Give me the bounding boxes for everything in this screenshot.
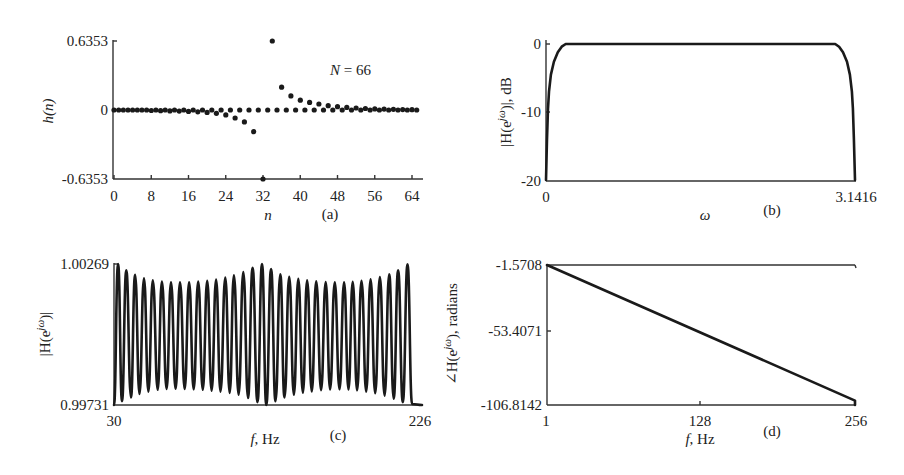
- panel-a-xtick-label: 16: [181, 188, 197, 204]
- panel-b-magnitude-db: 0 -10 -20 0 3.1416 |H(ejω)|, dB ω (b): [495, 36, 877, 223]
- panel-d-xtick-right: 256: [845, 413, 868, 429]
- data-point: [307, 100, 312, 105]
- panel-d-y-label: ∠H(ejω), radians: [441, 283, 461, 385]
- data-point: [219, 107, 224, 112]
- panel-a-xtick-label: 48: [330, 188, 345, 204]
- data-point: [298, 98, 303, 103]
- data-point: [116, 107, 121, 112]
- ylabel-part: |H(e: [37, 330, 54, 356]
- data-point: [349, 107, 354, 112]
- data-point: [279, 85, 284, 90]
- panel-a-xtick-label: 24: [218, 188, 234, 204]
- panel-b-magnitude-curve: [546, 44, 855, 180]
- data-point: [368, 107, 373, 112]
- panel-a-ytick-bottom: -0.6353: [62, 171, 108, 187]
- panel-c-x-label: f, Hz: [250, 431, 280, 447]
- panel-a-data-points: [111, 38, 419, 181]
- data-point: [302, 107, 307, 112]
- panel-c-magnitude-ripple: 1.00269 0.99731 30 226 |H(ejω)| f, Hz (c…: [34, 256, 432, 447]
- data-point: [251, 129, 256, 134]
- data-point: [312, 107, 317, 112]
- data-point: [260, 176, 265, 181]
- data-point: [284, 107, 289, 112]
- panel-d-xtick-left: 1: [542, 413, 550, 429]
- data-point: [340, 107, 345, 112]
- panel-d-phase: -1.5708 -53.4071 -106.8142 1 128 256 ∠H(…: [441, 257, 868, 447]
- data-point: [130, 107, 135, 112]
- data-point: [172, 107, 177, 112]
- panel-d-ytick-mid: -53.4071: [488, 323, 542, 339]
- panel-c-label: (c): [330, 427, 347, 444]
- data-point: [186, 109, 191, 114]
- data-point: [209, 107, 214, 112]
- data-point: [400, 107, 405, 112]
- data-point: [200, 107, 205, 112]
- data-point: [149, 108, 154, 113]
- data-point: [414, 107, 419, 112]
- tick: [855, 265, 856, 268]
- data-point: [288, 93, 293, 98]
- data-point: [409, 107, 414, 112]
- data-point: [386, 107, 391, 112]
- ylabel-part: ∠H(e: [444, 349, 461, 384]
- panel-a-xtick-label: 40: [293, 188, 308, 204]
- panel-d-x-label: f, Hz: [685, 431, 715, 447]
- data-point: [395, 107, 400, 112]
- data-point: [191, 107, 196, 112]
- data-point: [354, 105, 359, 110]
- data-point: [139, 107, 144, 112]
- data-point: [246, 107, 251, 112]
- data-point: [330, 107, 335, 112]
- data-point: [358, 107, 363, 112]
- panel-b-ytick-bottom: -20: [521, 173, 541, 189]
- panel-a-label: (a): [322, 206, 339, 223]
- data-point: [237, 107, 242, 112]
- figure: 0.6353 0 -0.6353 0816243240485664 h(n) n…: [0, 0, 904, 475]
- data-point: [335, 104, 340, 109]
- panel-a-impulse-response: 0.6353 0 -0.6353 0816243240485664 h(n) n…: [40, 33, 423, 223]
- panel-c-ytick-top: 1.00269: [60, 256, 109, 272]
- ylabel-part: ), radians: [444, 283, 461, 339]
- panel-d-ytick-bottom: -106.8142: [481, 397, 542, 413]
- panel-c-ripple-curve: [114, 264, 422, 405]
- data-point: [372, 106, 377, 111]
- panel-d-xtick-mid: 128: [689, 413, 712, 429]
- panel-b-x-label: ω: [700, 207, 711, 223]
- panel-c-xtick-left: 30: [107, 413, 122, 429]
- data-point: [391, 107, 396, 112]
- data-point: [382, 107, 387, 112]
- data-point: [363, 106, 368, 111]
- panel-b-ytick-top: 0: [534, 36, 542, 52]
- panel-d-phase-curve: [547, 265, 855, 405]
- data-point: [233, 115, 238, 120]
- panel-b-xtick-left: 0: [542, 189, 550, 205]
- data-point: [344, 105, 349, 110]
- data-point: [111, 107, 116, 112]
- data-point: [321, 107, 326, 112]
- panel-c-ytick-bottom: 0.99731: [60, 397, 109, 413]
- data-point: [405, 107, 410, 112]
- data-point: [377, 107, 382, 112]
- panel-d-label: (d): [763, 423, 781, 440]
- data-point: [144, 107, 149, 112]
- ylabel-superscript: jω: [441, 339, 453, 352]
- panel-b-xtick-right: 3.1416: [835, 189, 877, 205]
- panel-c-y-label: |H(ejω)|: [34, 312, 54, 356]
- data-point: [293, 107, 298, 112]
- data-point: [242, 119, 247, 124]
- panel-a-xtick-label: 64: [405, 188, 421, 204]
- panel-a-x-tick-labels: 0816243240485664: [110, 188, 420, 204]
- data-point: [265, 107, 270, 112]
- data-point: [214, 111, 219, 116]
- panel-b-y-label: |H(ejω)|, dB: [495, 77, 515, 146]
- panel-b-label: (b): [763, 202, 781, 219]
- data-point: [205, 110, 210, 115]
- panel-d-ytick-top: -1.5708: [496, 257, 542, 273]
- data-point: [270, 38, 275, 43]
- data-point: [274, 107, 279, 112]
- panel-b-ytick-mid: -10: [521, 104, 541, 120]
- data-point: [256, 107, 261, 112]
- panel-a-y-label: h(n): [40, 99, 57, 124]
- data-point: [121, 107, 126, 112]
- data-point: [177, 109, 182, 114]
